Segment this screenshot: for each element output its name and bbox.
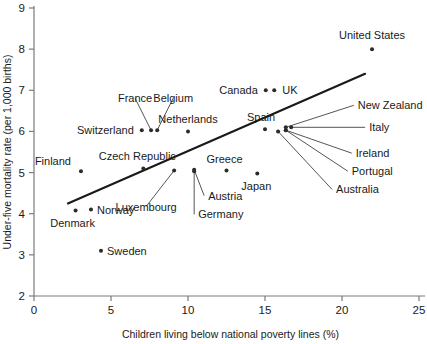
label-leader-line — [286, 130, 348, 171]
data-point[interactable] — [276, 129, 280, 133]
data-point[interactable] — [264, 88, 268, 92]
y-tick-label: 4 — [19, 208, 26, 220]
data-point-label: United States — [339, 29, 406, 41]
data-point-label: Italy — [369, 121, 390, 133]
x-tick-label: 10 — [182, 304, 195, 316]
data-point[interactable] — [370, 47, 374, 51]
data-point[interactable] — [263, 127, 267, 131]
data-point-label: Luxembourg — [116, 201, 177, 213]
x-tick-label: 5 — [108, 304, 114, 316]
data-point[interactable] — [140, 128, 144, 132]
data-point[interactable] — [284, 125, 288, 129]
data-point-label: Austria — [208, 190, 243, 202]
data-point-label: Greece — [206, 153, 242, 165]
x-tick-label: 20 — [336, 304, 349, 316]
data-point-label: UK — [282, 84, 298, 96]
x-tick-label: 25 — [413, 304, 426, 316]
data-point[interactable] — [192, 169, 196, 173]
x-axis-title: Children living below national poverty l… — [122, 328, 339, 340]
y-tick-label: 5 — [19, 167, 25, 179]
data-point[interactable] — [172, 169, 176, 173]
data-point[interactable] — [225, 169, 229, 173]
data-point-label: Australia — [336, 183, 380, 195]
data-point[interactable] — [99, 249, 103, 253]
data-point[interactable] — [149, 128, 153, 132]
data-point[interactable] — [186, 129, 190, 133]
data-point-label: Ireland — [356, 147, 390, 159]
data-point-label: Denmark — [50, 217, 95, 229]
label-leader-line — [278, 131, 332, 189]
y-tick-label: 2 — [19, 290, 25, 302]
y-tick-label: 9 — [19, 2, 25, 14]
x-tick-label: 15 — [259, 304, 272, 316]
data-point-label: Japan — [241, 180, 271, 192]
y-axis-title: Under-five mortality rate (per 1,000 bir… — [1, 55, 13, 250]
data-point-label: Sweden — [107, 245, 147, 257]
label-leader-line — [286, 130, 352, 153]
data-point-label: New Zealand — [358, 99, 423, 111]
data-point[interactable] — [155, 128, 159, 132]
y-tick-label: 7 — [19, 84, 25, 96]
data-point[interactable] — [141, 166, 145, 170]
scatter-plot-figure: 051015202523456789Children living below … — [0, 0, 427, 344]
data-point-label: Canada — [219, 84, 258, 96]
data-point-label: Netherlands — [158, 113, 218, 125]
label-leader-line — [286, 105, 354, 127]
data-point-label: Germany — [198, 208, 244, 220]
data-point-label: Spain — [247, 111, 275, 123]
data-point[interactable] — [74, 208, 78, 212]
trend-line — [68, 74, 365, 204]
y-tick-label: 3 — [19, 249, 25, 261]
x-tick-label: 0 — [31, 304, 37, 316]
data-point-label: Finland — [35, 155, 71, 167]
data-point[interactable] — [89, 208, 93, 212]
y-tick-label: 6 — [19, 125, 25, 137]
data-point-label: France — [118, 92, 152, 104]
data-point-label: Portugal — [352, 165, 393, 177]
plot-canvas: 051015202523456789Children living below … — [0, 0, 427, 344]
data-point[interactable] — [272, 88, 276, 92]
data-point[interactable] — [79, 169, 83, 173]
label-leader-line — [194, 170, 204, 196]
y-tick-label: 8 — [19, 43, 25, 55]
data-point-label: Belgium — [153, 92, 193, 104]
data-point-label: Czech Republic — [99, 150, 177, 162]
data-point[interactable] — [255, 171, 259, 175]
data-point-label: Switzerland — [77, 124, 134, 136]
